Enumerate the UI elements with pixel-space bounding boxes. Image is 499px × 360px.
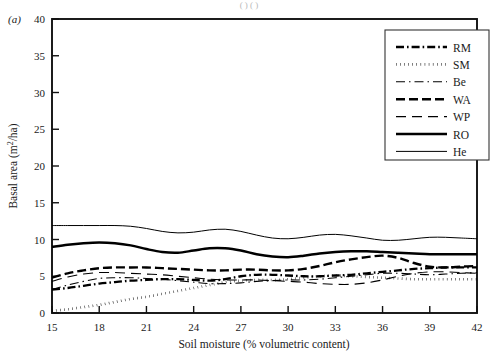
legend-label-ro: RO (453, 129, 469, 141)
x-tick-label: 33 (330, 321, 342, 333)
y-tick-label: 5 (40, 270, 46, 282)
x-tick-label: 24 (188, 321, 200, 333)
y-axis-ticks (52, 19, 59, 313)
panel-label: (a) (8, 13, 21, 26)
x-tick-label: 18 (94, 321, 106, 333)
x-tick-label: 27 (235, 321, 247, 333)
x-axis-ticks (52, 306, 477, 313)
top-text-fragment: ( ) ( ) (240, 0, 259, 10)
legend-label-be: Be (453, 76, 466, 88)
legend-label-he: He (453, 146, 466, 158)
legend-frame (385, 30, 489, 160)
series-line-sm (52, 276, 477, 311)
data-series-group (52, 225, 477, 310)
figure-panel-a: ( ) ( ) (a) 0510152025303540 15182124273… (0, 0, 499, 360)
y-tick-label: 15 (34, 197, 46, 209)
x-tick-label: 15 (47, 321, 59, 333)
y-axis-title: Basal area (m2/ha) (6, 123, 20, 208)
x-tick-label: 42 (472, 321, 483, 333)
y-tick-label: 35 (34, 50, 46, 62)
legend-label-wp: WP (453, 111, 470, 123)
x-tick-label: 30 (283, 321, 295, 333)
y-tick-label: 30 (34, 87, 46, 99)
x-axis-tick-labels: 15182124273033363942 (47, 321, 483, 333)
x-tick-label: 36 (377, 321, 389, 333)
legend-label-sm: SM (453, 59, 470, 71)
series-line-ro (52, 242, 477, 257)
y-tick-label: 25 (34, 123, 46, 135)
y-tick-label: 20 (34, 160, 46, 172)
basal-area-vs-soil-moisture-chart: ( ) ( ) (a) 0510152025303540 15182124273… (0, 0, 499, 360)
series-line-he (52, 225, 477, 240)
legend-label-rm: RM (453, 42, 471, 54)
chart-legend[interactable]: RMSMBeWAWPROHe (385, 30, 489, 160)
x-axis-title: Soil moisture (% volumetric content) (178, 338, 349, 351)
legend-label-wa: WA (453, 94, 472, 106)
series-line-wa (52, 256, 477, 278)
y-tick-label: 10 (34, 234, 46, 246)
x-tick-label: 39 (424, 321, 436, 333)
y-tick-label: 0 (40, 307, 46, 319)
y-axis-tick-labels: 0510152025303540 (34, 13, 46, 319)
x-tick-label: 21 (141, 321, 152, 333)
y-tick-label: 40 (34, 13, 46, 25)
